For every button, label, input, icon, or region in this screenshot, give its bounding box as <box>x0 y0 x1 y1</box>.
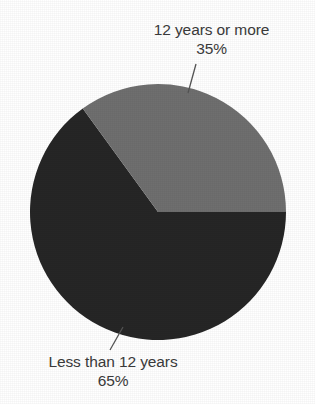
pie-label-top-percent: 35% <box>139 39 284 58</box>
pie-label-top-name: 12 years or more <box>139 20 284 39</box>
pie-label-bottom-name: Less than 12 years <box>38 352 188 371</box>
pie-label-less-than-12-years: Less than 12 years 65% <box>38 352 188 390</box>
pie-chart-figure <box>0 0 315 404</box>
pie-label-12-years-or-more: 12 years or more 35% <box>139 20 284 58</box>
pie-label-bottom-percent: 65% <box>38 371 188 390</box>
